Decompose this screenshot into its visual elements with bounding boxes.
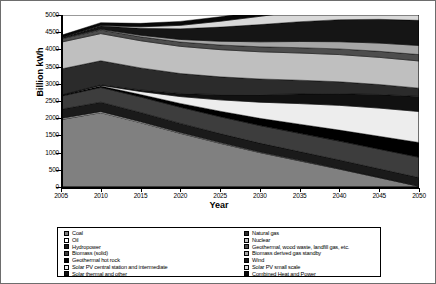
- legend-swatch-icon: [64, 244, 69, 249]
- y-tick: [56, 32, 61, 33]
- legend-item-label: Oil: [72, 237, 78, 243]
- legend-item[interactable]: Geothermal, wood waste, landfill gas, et…: [244, 244, 380, 251]
- y-tick-label: 4500: [15, 28, 59, 35]
- legend-column-left: CoalOilHydropowerBiomass (solid)Geotherm…: [64, 230, 224, 277]
- y-tick-label: 3500: [15, 63, 59, 70]
- legend-swatch-icon: [244, 258, 249, 263]
- y-tick-label: 1000: [15, 149, 59, 156]
- legend-item[interactable]: Geothermal hot rock: [64, 257, 224, 264]
- x-tick-label: 2050: [404, 192, 434, 200]
- legend-swatch-icon: [64, 258, 69, 263]
- stacked-area-svg: [61, 15, 419, 187]
- y-tick: [56, 153, 61, 154]
- y-tick-label: 0: [15, 183, 59, 190]
- y-tick: [56, 118, 61, 119]
- y-tick: [56, 67, 61, 68]
- y-tick-label: 500: [15, 166, 59, 173]
- legend-swatch-icon: [64, 238, 69, 243]
- legend-item-label: Coal: [72, 230, 83, 236]
- x-tick-label: 2015: [126, 192, 156, 200]
- y-tick-label: 2500: [15, 97, 59, 104]
- legend-item[interactable]: Solar thermal and other: [64, 271, 224, 278]
- legend-item-label: Hydropower: [72, 244, 101, 250]
- y-tick-label: 1500: [15, 131, 59, 138]
- y-tick-label: 4000: [15, 45, 59, 52]
- x-tick-label: 2010: [86, 192, 116, 200]
- legend-item[interactable]: Hydropower: [64, 244, 224, 251]
- y-tick: [56, 101, 61, 102]
- legend-item[interactable]: Solar PV central station and intermediat…: [64, 264, 224, 271]
- legend-item[interactable]: Coal: [64, 230, 224, 237]
- x-tick-label: 2040: [324, 192, 354, 200]
- chart-legend: CoalOilHydropowerBiomass (solid)Geotherm…: [57, 227, 381, 277]
- y-tick: [56, 49, 61, 50]
- y-tick: [56, 15, 61, 16]
- legend-swatch-icon: [64, 271, 69, 276]
- plot-area: [61, 15, 419, 187]
- legend-swatch-icon: [244, 238, 249, 243]
- y-tick-label: 5000: [15, 11, 59, 18]
- legend-item-label: Biomass (solid): [72, 250, 108, 256]
- legend-item-label: Nuclear: [252, 237, 270, 243]
- legend-item-label: Wind: [252, 257, 264, 263]
- chart-page: Billion kWh 0500100015002000250030003500…: [0, 0, 436, 284]
- legend-item-label: Solar PV small scale: [252, 264, 300, 270]
- x-tick-label: 2030: [245, 192, 275, 200]
- legend-column-right: Natural gasNuclearGeothermal, wood waste…: [244, 230, 380, 277]
- legend-item[interactable]: Nuclear: [244, 237, 380, 244]
- legend-swatch-icon: [64, 265, 69, 270]
- legend-item[interactable]: Combined Heat and Power: [244, 271, 380, 278]
- legend-item[interactable]: Solar PV small scale: [244, 264, 380, 271]
- x-tick-label: 2005: [46, 192, 76, 200]
- legend-item-label: Natural gas: [252, 230, 279, 236]
- legend-item[interactable]: Natural gas: [244, 230, 380, 237]
- y-tick: [56, 135, 61, 136]
- x-tick-label: 2020: [165, 192, 195, 200]
- legend-item-label: Geothermal hot rock: [72, 257, 120, 263]
- legend-item[interactable]: Oil: [64, 237, 224, 244]
- legend-swatch-icon: [244, 231, 249, 236]
- y-tick: [56, 170, 61, 171]
- legend-item-label: Biomass derived gas standby: [252, 250, 321, 256]
- legend-item[interactable]: Biomass (solid): [64, 250, 224, 257]
- legend-item-label: Solar PV central station and intermediat…: [72, 264, 168, 270]
- y-axis-line: [61, 15, 63, 187]
- chart-frame: Billion kWh 0500100015002000250030003500…: [9, 7, 427, 211]
- legend-item[interactable]: Wind: [244, 257, 380, 264]
- x-tick-label: 2035: [285, 192, 315, 200]
- legend-item[interactable]: Biomass derived gas standby: [244, 250, 380, 257]
- legend-item-label: Solar thermal and other: [72, 271, 127, 277]
- legend-swatch-icon: [244, 244, 249, 249]
- legend-item-label: Geothermal, wood waste, landfill gas, et…: [252, 244, 349, 250]
- legend-swatch-icon: [244, 271, 249, 276]
- x-axis-line: [61, 187, 419, 189]
- y-tick-label: 3000: [15, 80, 59, 87]
- x-tick-label: 2045: [364, 192, 394, 200]
- y-tick: [56, 84, 61, 85]
- legend-swatch-icon: [244, 265, 249, 270]
- legend-swatch-icon: [64, 231, 69, 236]
- x-tick-label: 2025: [205, 192, 235, 200]
- legend-swatch-icon: [64, 251, 69, 256]
- legend-swatch-icon: [244, 251, 249, 256]
- x-axis-title: Year: [159, 200, 279, 210]
- y-tick-label: 2000: [15, 114, 59, 121]
- legend-item-label: Combined Heat and Power: [252, 271, 316, 277]
